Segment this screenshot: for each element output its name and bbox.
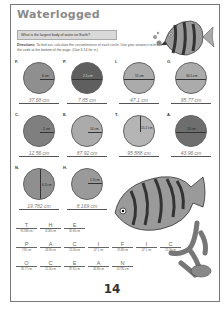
answer-field[interactable]: 47.1 cm	[119, 97, 159, 104]
problem-letter: I.	[115, 59, 117, 64]
code-value: 87.92 cm	[64, 268, 85, 271]
measure-label: 1.3 cm	[90, 178, 100, 182]
code-blank[interactable]: P	[16, 241, 37, 248]
code-blank[interactable]: H	[40, 222, 61, 229]
code-value: 47.1 cm	[88, 249, 109, 252]
code-item: C12.56 cm	[40, 260, 61, 271]
circle-shape: 14 cm	[175, 115, 207, 147]
code-value: 37.68 cm	[112, 249, 133, 252]
code-blank[interactable]: C	[160, 241, 181, 248]
measure-label: 14 cm	[187, 127, 196, 131]
code-row-2: P7.85 cm A43.96 cm C12.56 cm I47.1 cm F3…	[16, 241, 181, 252]
measure-label: 6 cm	[42, 74, 49, 78]
answer-field[interactable]: 87.92 cm	[67, 150, 107, 157]
code-blank[interactable]: A	[88, 260, 109, 267]
code-item: C12.56 cm	[160, 241, 181, 252]
circle-problem-a: A. 14 cm 43.96 cm	[167, 112, 215, 164]
page-number: 14	[0, 282, 224, 296]
answer-field[interactable]: 95.77 cm	[171, 97, 211, 104]
code-blank[interactable]: I	[136, 241, 157, 248]
code-value: 95.588 cm	[16, 230, 37, 233]
circle-problem-t: T. 15.2 cm 95.588 cm	[115, 112, 163, 164]
code-value: 12.56 cm	[160, 249, 181, 252]
code-blank[interactable]: C	[40, 260, 61, 267]
circle-problem-c: C. 2 cm 12.56 cm	[15, 112, 63, 164]
measure-label: 15.2 cm	[141, 126, 152, 130]
code-blank[interactable]: T	[16, 222, 37, 229]
code-item: E87.92 cm	[64, 260, 85, 271]
code-blank[interactable]: E	[64, 222, 85, 229]
answer-field[interactable]: 8.169 cm	[67, 203, 107, 210]
circle-problem-h: H. 1.3 cm 8.169 cm	[63, 165, 111, 217]
problem-letter: N.	[15, 165, 19, 170]
answer-field[interactable]: 95.588 cm	[119, 150, 159, 157]
code-row-3: O95.77 cm C12.56 cm E87.92 cm A43.96 cm …	[16, 260, 133, 271]
answer-field[interactable]: 37.68 cm	[19, 97, 59, 104]
measure-label: 2 cm	[43, 127, 50, 131]
circle-shape: 14 cm	[71, 115, 103, 147]
code-value: 12.56 cm	[64, 249, 85, 252]
measure-label: 2.5 cm	[83, 74, 93, 78]
code-item: C12.56 cm	[64, 241, 85, 252]
code-blank[interactable]: C	[64, 241, 85, 248]
answer-field[interactable]: 19.782 cm	[19, 203, 59, 210]
code-item: A43.96 cm	[88, 260, 109, 271]
circle-shape: 6 cm	[23, 62, 55, 94]
code-blank[interactable]: F	[112, 241, 133, 248]
circle-problem-p: P. 2.5 cm 7.85 cm	[63, 59, 111, 111]
code-item: P7.85 cm	[16, 241, 37, 252]
code-value: 43.96 cm	[40, 249, 61, 252]
code-value: 19.782 cm	[112, 268, 133, 271]
fish-illustration-top	[151, 13, 217, 59]
code-value: 12.56 cm	[40, 268, 61, 271]
circle-shape: 15 cm	[123, 62, 155, 94]
problem-letter: F.	[15, 59, 18, 64]
worksheet-page: Waterlogged What is the largest body of …	[10, 4, 220, 302]
circle-problem-e: E. 14 cm 87.92 cm	[63, 112, 111, 164]
code-blank[interactable]: A	[40, 241, 61, 248]
problem-letter: A.	[167, 112, 171, 117]
circle-shape: 1.3 cm	[71, 168, 103, 200]
code-value: 43.96 cm	[88, 268, 109, 271]
problem-letter: E.	[63, 112, 67, 117]
code-value: 47.1 cm	[136, 249, 157, 252]
code-item: T95.588 cm	[16, 222, 37, 233]
question-box: What is the largest body of water on Ear…	[17, 30, 117, 40]
code-item: N19.782 cm	[112, 260, 133, 271]
problem-letter: P.	[63, 59, 66, 64]
circle-shape: 2.5 cm	[71, 62, 103, 94]
answer-field[interactable]: 12.56 cm	[19, 150, 59, 157]
directions-text: To find out, calculate the circumference…	[17, 43, 162, 52]
circle-problem-o: O. 30.5 cm 95.77 cm	[167, 59, 215, 111]
code-item: O95.77 cm	[16, 260, 37, 271]
directions: Directions: To find out, calculate the c…	[17, 43, 167, 53]
code-value: 95.77 cm	[16, 268, 37, 271]
problem-letter: C.	[15, 112, 19, 117]
measure-label: 15 cm	[135, 74, 144, 78]
code-item: A43.96 cm	[40, 241, 61, 252]
worksheet-title: Waterlogged	[17, 8, 100, 21]
circle-shape: 30.5 cm	[175, 62, 207, 94]
circle-problem-n: N. 6.3 cm 19.782 cm	[15, 165, 63, 217]
measure-label: 14 cm	[90, 127, 99, 131]
code-value: 7.85 cm	[16, 249, 37, 252]
directions-label: Directions:	[17, 43, 35, 47]
code-blank[interactable]: E	[64, 260, 85, 267]
circle-shape: 2 cm	[23, 115, 55, 147]
code-blank[interactable]: I	[88, 241, 109, 248]
measure-label: 30.5 cm	[186, 74, 197, 78]
circle-shape: 15.2 cm	[123, 115, 155, 147]
circle-problem-i: I. 15 cm 47.1 cm	[115, 59, 163, 111]
problem-letter: H.	[63, 165, 67, 170]
code-blank[interactable]: O	[16, 260, 37, 267]
measure-label: 6.3 cm	[42, 183, 52, 187]
code-item: F37.68 cm	[112, 241, 133, 252]
answer-field[interactable]: 7.85 cm	[67, 97, 107, 104]
code-item: E92.96 cm	[64, 222, 85, 233]
code-item: I47.1 cm	[136, 241, 157, 252]
code-row-1: T95.588 cm H8.169 cm E92.96 cm	[16, 222, 85, 233]
circle-shape: 6.3 cm	[23, 168, 55, 200]
problem-letter: T.	[115, 112, 118, 117]
code-blank[interactable]: N	[112, 260, 133, 267]
answer-field[interactable]: 43.96 cm	[171, 150, 211, 157]
